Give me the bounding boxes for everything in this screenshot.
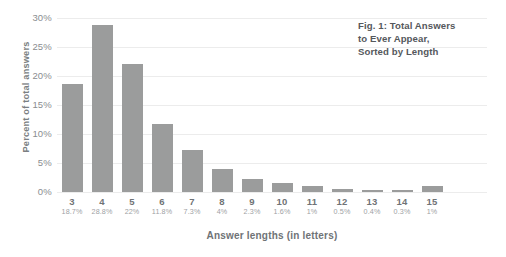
bar-slot (117, 18, 147, 192)
bar-value-label: 28.8% (87, 207, 117, 217)
bar (92, 25, 113, 192)
bar-value-label: 7.3% (177, 207, 207, 217)
bar-value-label: 4% (207, 207, 237, 217)
x-axis-labels: 318.7%428.8%522%611.8%77.3%84%92.3%101.6… (57, 196, 487, 217)
figure-title-line: to Ever Appear, (358, 32, 488, 45)
bar (152, 124, 173, 192)
x-axis-label-group: 92.3% (237, 196, 267, 217)
x-axis-category-label: 3 (57, 196, 87, 207)
x-axis-category-label: 5 (117, 196, 147, 207)
x-axis-label-group: 130.4% (357, 196, 387, 217)
x-axis-title: Answer lengths (in letters) (57, 230, 487, 241)
x-axis-label-group: 84% (207, 196, 237, 217)
bar-value-label: 0.4% (357, 207, 387, 217)
y-axis-title: Percent of total answers (21, 22, 31, 172)
bar (122, 64, 143, 192)
bar (392, 190, 413, 192)
x-axis-label-group: 120.5% (327, 196, 357, 217)
bar-value-label: 11.8% (147, 207, 177, 217)
figure-container: 0%5%10%15%20%25%30% 318.7%428.8%522%611.… (0, 0, 506, 257)
bar-value-label: 2.3% (237, 207, 267, 217)
bar-slot (147, 18, 177, 192)
x-axis-category-label: 11 (297, 196, 327, 207)
gridline (57, 192, 487, 193)
bar-value-label: 0.5% (327, 207, 357, 217)
figure-title: Fig. 1: Total Answersto Ever Appear,Sort… (358, 19, 488, 58)
x-axis-label-group: 428.8% (87, 196, 117, 217)
x-axis-label-group: 151% (417, 196, 447, 217)
bar-value-label: 18.7% (57, 207, 87, 217)
x-axis-label-group: 140.3% (387, 196, 417, 217)
x-axis-category-label: 6 (147, 196, 177, 207)
x-axis-label-group: 611.8% (147, 196, 177, 217)
x-axis-category-label: 14 (387, 196, 417, 207)
x-axis-label-group: 77.3% (177, 196, 207, 217)
bar (362, 190, 383, 192)
figure-title-line: Sorted by Length (358, 45, 488, 58)
x-axis-label-group: 111% (297, 196, 327, 217)
bar (212, 169, 233, 192)
figure-title-line: Fig. 1: Total Answers (358, 19, 488, 32)
bar (62, 84, 83, 192)
x-axis-label-group: 318.7% (57, 196, 87, 217)
bar-value-label: 0.3% (387, 207, 417, 217)
x-axis-category-label: 9 (237, 196, 267, 207)
x-axis-category-label: 7 (177, 196, 207, 207)
bar-slot (267, 18, 297, 192)
bar-slot (177, 18, 207, 192)
x-axis-category-label: 8 (207, 196, 237, 207)
bar-value-label: 1% (417, 207, 447, 217)
bar-slot (87, 18, 117, 192)
x-axis-label-group: 522% (117, 196, 147, 217)
bar (422, 186, 443, 192)
bar-slot (207, 18, 237, 192)
x-axis-category-label: 4 (87, 196, 117, 207)
bar-slot (297, 18, 327, 192)
bar-value-label: 22% (117, 207, 147, 217)
bar-slot (237, 18, 267, 192)
x-axis-category-label: 13 (357, 196, 387, 207)
x-axis-category-label: 12 (327, 196, 357, 207)
bar-slot (57, 18, 87, 192)
bar-value-label: 1.6% (267, 207, 297, 217)
bar (182, 150, 203, 192)
x-axis-label-group: 101.6% (267, 196, 297, 217)
bar (332, 189, 353, 192)
bar (242, 179, 263, 192)
bar (302, 186, 323, 192)
x-axis-category-label: 10 (267, 196, 297, 207)
bar (272, 183, 293, 192)
bar-value-label: 1% (297, 207, 327, 217)
bar-slot (327, 18, 357, 192)
y-axis-tick-label: 0% (8, 187, 52, 197)
x-axis-category-label: 15 (417, 196, 447, 207)
